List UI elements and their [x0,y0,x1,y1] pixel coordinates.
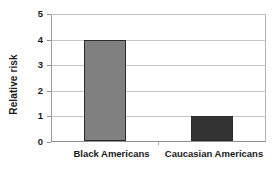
y-tick-mark-0 [47,142,51,143]
y-tick-label-0: 0 [19,137,43,147]
y-tick-label-2: 2 [19,86,43,96]
bar-black-americans [84,40,126,141]
x-tick-label-caucasian-americans: Caucasian Americans [148,149,280,159]
x-axis-center-tick [158,142,159,145]
y-tick-label-1: 1 [19,111,43,121]
plot-area [51,14,266,142]
y-tick-label-3: 3 [19,60,43,70]
bar-caucasian-americans [191,116,233,141]
y-tick-label-5: 5 [19,9,43,19]
bar-chart-figure: Relative risk 5 4 3 2 1 0 Black American… [0,0,280,169]
y-tick-label-4: 4 [19,35,43,45]
